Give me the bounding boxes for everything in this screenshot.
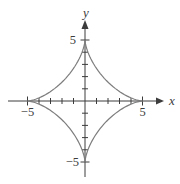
- x-axis-label: x: [168, 93, 175, 108]
- y-axis-arrow-icon: [82, 20, 89, 29]
- astroid-plot: −555−5 x y: [0, 0, 180, 184]
- y-axis-label: y: [81, 5, 89, 20]
- y-tick-label: 5: [70, 33, 76, 47]
- y-tick-label: −5: [66, 155, 79, 169]
- x-tick-label: 5: [139, 105, 145, 119]
- astroid-figure: −555−5 x y: [0, 0, 180, 184]
- x-axis-arrow-icon: [156, 98, 164, 105]
- x-tick-label: −5: [21, 105, 34, 119]
